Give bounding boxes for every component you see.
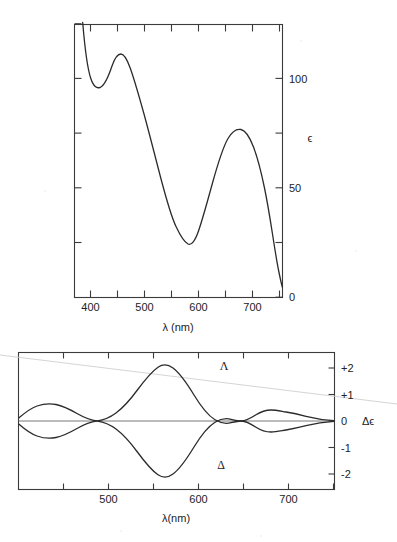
- cd-ytick-minus2: -2: [341, 468, 351, 480]
- absorption-xtick-500: 500: [135, 301, 153, 313]
- cd-xtick-600: 600: [189, 493, 207, 505]
- absorption-xtick-400: 400: [81, 301, 99, 313]
- spectra-figure: 400 500 600 700 0 50 100 λ (nm) ϵ: [0, 0, 397, 542]
- cd-ytick-plus2: +2: [341, 362, 354, 374]
- absorption-y-axis-title: ϵ: [308, 132, 313, 144]
- cd-ytick-minus1: -1: [341, 442, 351, 454]
- cd-curve-label-lambda: Λ: [220, 359, 229, 373]
- figure-background: [0, 0, 397, 542]
- cd-ytick-plus1: +1: [341, 389, 354, 401]
- absorption-ytick-100: 100: [289, 73, 307, 85]
- absorption-x-axis-title: λ (nm): [162, 321, 193, 333]
- cd-curve-label-delta: Δ: [217, 458, 225, 472]
- cd-x-axis-title: λ(nm): [162, 512, 190, 524]
- absorption-xtick-700: 700: [243, 301, 261, 313]
- absorption-ytick-0: 0: [289, 291, 295, 303]
- cd-xtick-500: 500: [99, 493, 117, 505]
- cd-xtick-700: 700: [279, 493, 297, 505]
- absorption-xtick-600: 600: [189, 301, 207, 313]
- cd-ytick-zero: 0: [341, 415, 347, 427]
- cd-y-axis-title: Δϵ: [362, 415, 374, 427]
- absorption-ytick-50: 50: [289, 182, 301, 194]
